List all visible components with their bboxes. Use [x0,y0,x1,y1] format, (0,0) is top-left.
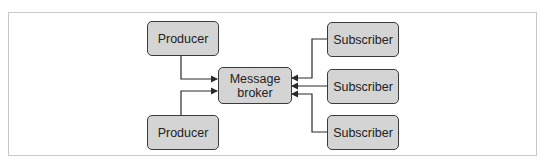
producer-label: Producer [158,32,209,46]
producer-node-top: Producer [147,21,219,56]
producer-node-bottom: Producer [147,115,219,150]
broker-label-line2: broker [237,86,272,100]
broker-label-line1: Message [230,72,281,86]
subscriber-label: Subscriber [333,33,393,47]
subscriber-node-1: Subscriber [327,22,399,57]
subscriber-node-3: Subscriber [327,115,399,150]
producer-label: Producer [158,126,209,140]
subscriber-label: Subscriber [333,126,393,140]
subscriber-label: Subscriber [333,80,393,94]
message-broker-node: Message broker [218,67,292,104]
subscriber-node-2: Subscriber [327,69,399,104]
